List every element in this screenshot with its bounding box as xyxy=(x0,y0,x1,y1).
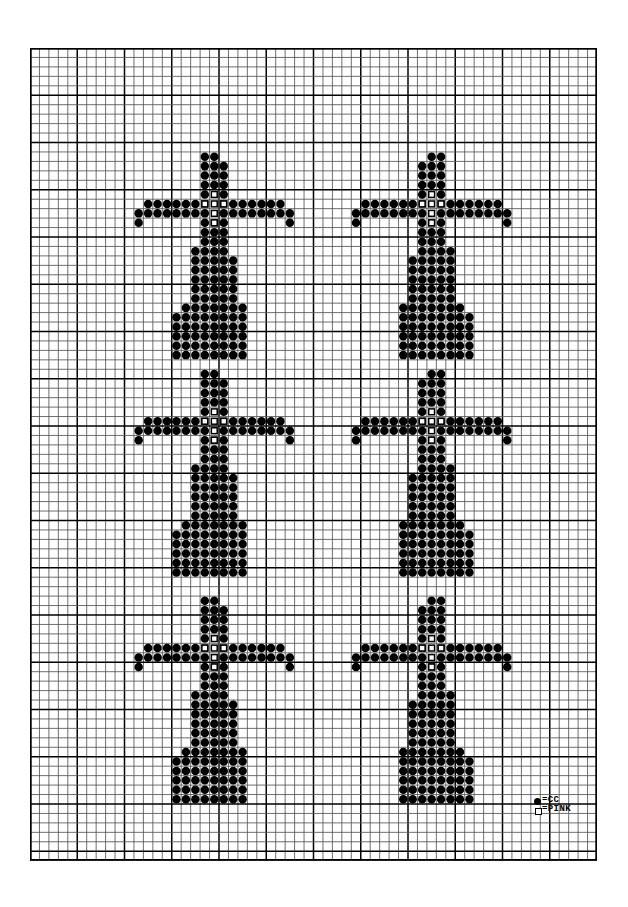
legend-item-pink: =PINK xyxy=(533,805,599,814)
pattern-grid-area xyxy=(30,48,597,861)
legend: =CC =PINK xyxy=(533,796,599,815)
grid-lines xyxy=(30,48,597,861)
legend-label-pink: =PINK xyxy=(542,805,571,814)
filled-circle-icon xyxy=(533,796,542,805)
open-square-icon xyxy=(533,806,542,815)
pattern-page: =CC =PINK xyxy=(0,0,628,907)
